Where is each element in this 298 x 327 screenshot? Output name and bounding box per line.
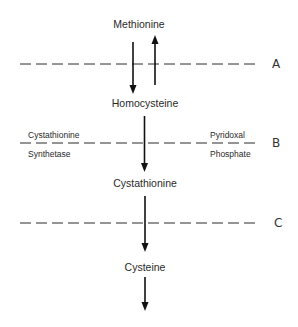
methionine-pathway-diagram: Methionine Homocysteine Cystathionine Cy… — [0, 0, 298, 327]
block-line-b: B Cystathionine Synthetase Pyridoxal Pho… — [20, 130, 280, 159]
arrow-cystathionine-to-cysteine — [142, 196, 149, 252]
block-line-a: A — [20, 57, 281, 71]
arrowhead-down-icon — [141, 163, 148, 172]
arrow-cysteine-out — [142, 277, 149, 311]
arrow-homocysteine-to-cystathionine — [141, 116, 148, 172]
enzyme-label-line2: Synthetase — [28, 149, 71, 159]
node-cystathionine: Cystathionine — [113, 177, 177, 189]
arrow-homocysteine-to-methionine — [152, 35, 159, 85]
arrowhead-down-icon — [142, 243, 149, 252]
enzyme-label-line1: Cystathionine — [28, 130, 80, 140]
cofactor-label-line1: Pyridoxal — [210, 130, 245, 140]
node-methionine: Methionine — [113, 18, 165, 30]
node-homocysteine: Homocysteine — [112, 97, 179, 109]
block-label-b: B — [272, 136, 280, 150]
arrowhead-down-icon — [142, 302, 149, 311]
arrowhead-down-icon — [130, 85, 137, 94]
arrow-methionine-to-homocysteine — [130, 42, 137, 94]
block-label-c: C — [274, 216, 282, 230]
cofactor-label-line2: Phosphate — [210, 149, 251, 159]
node-cysteine: Cysteine — [125, 261, 166, 273]
block-label-a: A — [272, 57, 281, 71]
arrowhead-up-icon — [152, 35, 159, 44]
block-line-c: C — [20, 216, 282, 230]
